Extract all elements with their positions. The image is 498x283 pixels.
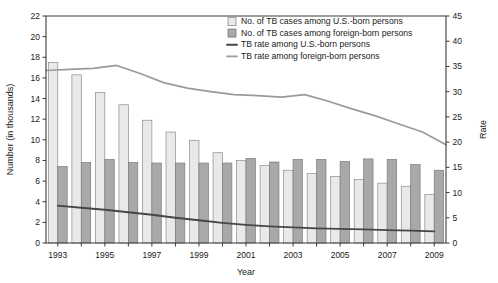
y-tick-label: 4 <box>35 197 40 207</box>
bar-us-born <box>48 62 57 243</box>
bar-foreign-born <box>246 158 255 243</box>
bar-us-born <box>95 92 104 243</box>
legend-label: TB rate among foreign-born persons <box>241 51 380 61</box>
bar-us-born <box>72 75 81 243</box>
y-tick-label: 18 <box>31 52 41 62</box>
y2-axis-title: Rate <box>478 120 488 139</box>
bar-foreign-born <box>293 159 302 243</box>
y2-tick-label: 40 <box>453 36 463 46</box>
y2-tick-label: 30 <box>453 87 463 97</box>
bar-foreign-born <box>152 163 161 243</box>
x-tick-label: 2009 <box>425 250 444 260</box>
y2-tick-label: 45 <box>453 11 463 21</box>
y2-tick-label: 0 <box>453 238 458 248</box>
legend-label: No. of TB cases among U.S.-born persons <box>241 16 403 26</box>
bar-us-born <box>190 140 199 243</box>
legend-swatch-foreign-born-cases <box>228 29 236 37</box>
bar-foreign-born <box>340 161 349 243</box>
x-tick-label: 2003 <box>284 250 303 260</box>
y-tick-label: 6 <box>35 176 40 186</box>
y2-tick-label: 20 <box>453 137 463 147</box>
bar-foreign-born <box>222 163 231 243</box>
bar-us-born <box>260 166 269 243</box>
bar-us-born <box>284 170 293 243</box>
y-tick-label: 0 <box>35 238 40 248</box>
bar-foreign-born <box>270 162 279 243</box>
y2-tick-label: 5 <box>453 213 458 223</box>
chart-canvas: 0246810121416182022051015202530354045199… <box>0 0 498 283</box>
bar-us-born <box>354 180 363 243</box>
bar-us-born <box>425 195 434 243</box>
bar-us-born <box>401 186 410 243</box>
x-tick-label: 1999 <box>189 250 208 260</box>
bar-foreign-born <box>81 163 90 243</box>
y-tick-label: 16 <box>31 73 41 83</box>
bar-foreign-born <box>128 163 137 243</box>
legend-swatch-us-born-cases <box>228 18 236 26</box>
bar-us-born <box>213 153 222 243</box>
bar-foreign-born <box>199 163 208 243</box>
bar-foreign-born <box>317 159 326 243</box>
tb-cases-and-rates-chart: 0246810121416182022051015202530354045199… <box>0 0 498 283</box>
bar-foreign-born <box>175 163 184 243</box>
y-tick-label: 8 <box>35 155 40 165</box>
y2-tick-label: 15 <box>453 162 463 172</box>
bar-us-born <box>142 120 151 243</box>
x-tick-label: 2001 <box>237 250 256 260</box>
bar-us-born <box>119 105 128 243</box>
y-tick-label: 12 <box>31 114 41 124</box>
y-tick-label: 14 <box>31 94 41 104</box>
y2-tick-label: 25 <box>453 112 463 122</box>
bar-us-born <box>307 173 316 243</box>
bar-us-born <box>237 160 246 243</box>
y2-tick-label: 35 <box>453 61 463 71</box>
legend-label: TB rate among U.S.-born persons <box>241 39 370 49</box>
bar-foreign-born <box>434 170 443 243</box>
bar-us-born <box>166 132 175 243</box>
y-tick-label: 20 <box>31 32 41 42</box>
y-tick-label: 2 <box>35 217 40 227</box>
bar-foreign-born <box>105 159 114 243</box>
x-tick-label: 2005 <box>331 250 350 260</box>
x-tick-label: 1993 <box>48 250 67 260</box>
x-axis-title: Year <box>237 267 255 277</box>
bar-foreign-born <box>58 167 67 243</box>
x-tick-label: 1995 <box>95 250 114 260</box>
bar-us-born <box>331 176 340 243</box>
x-tick-label: 2007 <box>378 250 397 260</box>
legend-label: No. of TB cases among foreign-born perso… <box>241 28 412 38</box>
y2-tick-label: 10 <box>453 188 463 198</box>
y-axis-title: Number (in thousands) <box>5 84 15 176</box>
y-tick-label: 10 <box>31 135 41 145</box>
bar-us-born <box>378 183 387 243</box>
y-tick-label: 22 <box>31 11 41 21</box>
x-tick-label: 1997 <box>142 250 161 260</box>
